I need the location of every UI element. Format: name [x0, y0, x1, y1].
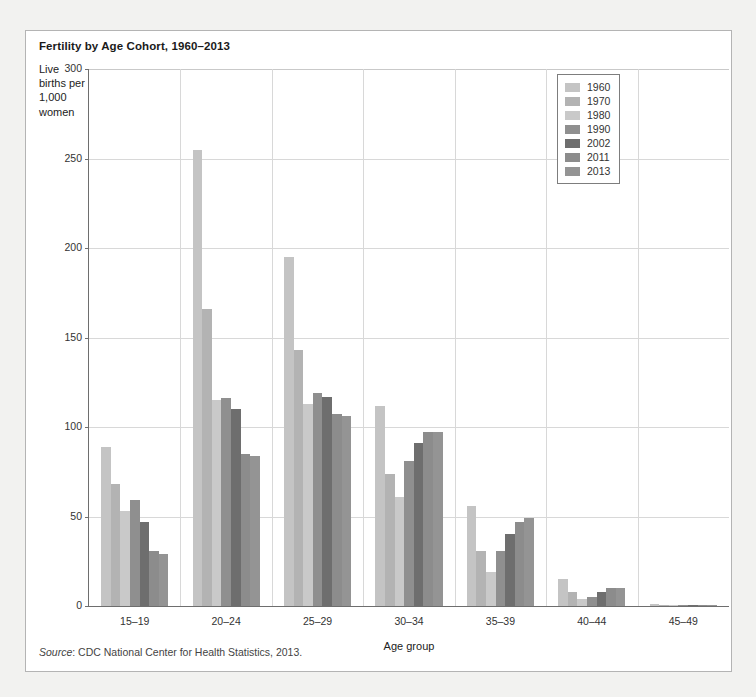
bar-1960-35-39: [467, 506, 477, 606]
figure-frame: Fertility by Age Cohort, 1960–2013 Live …: [25, 30, 732, 672]
bar-1990-20-24: [221, 398, 231, 606]
bar-1980-20-24: [212, 400, 222, 606]
bar-1990-25-29: [313, 393, 323, 606]
y-axis-tick-label: 50: [42, 510, 82, 522]
legend-swatch-icon: [565, 139, 580, 148]
x-axis-group-label: 35–39: [455, 615, 546, 627]
gridline-horizontal: [89, 338, 729, 339]
bar-1960-30-34: [375, 406, 385, 606]
gridline-horizontal: [89, 69, 729, 70]
y-axis-tick-label: 0: [42, 599, 82, 611]
bar-1970-40-44: [568, 592, 578, 606]
bar-1980-40-44: [577, 599, 587, 606]
legend-item: 2013: [565, 164, 610, 178]
bar-1960-20-24: [193, 150, 203, 606]
y-axis-tick-label: 300: [42, 62, 82, 74]
bar-2013-30-34: [433, 432, 443, 606]
bar-1970-25-29: [294, 350, 304, 606]
bar-2013-25-29: [342, 416, 352, 606]
plot-frame: Age group 05010015020025030015–1920–2425…: [89, 69, 729, 606]
legend-item: 1990: [565, 122, 610, 136]
bar-2002-40-44: [597, 592, 607, 606]
y-axis-tick-label: 250: [42, 152, 82, 164]
gridline-horizontal: [89, 427, 729, 428]
bar-1990-40-44: [587, 597, 597, 606]
legend-swatch-icon: [565, 153, 580, 162]
chart-legend: 1960197019801990200220112013: [557, 74, 620, 184]
bar-1980-35-39: [486, 572, 496, 606]
legend-swatch-icon: [565, 83, 580, 92]
bar-1970-15-19: [111, 484, 121, 606]
bar-1960-40-44: [558, 579, 568, 606]
legend-label: 2011: [587, 150, 610, 164]
bar-2002-20-24: [231, 409, 241, 606]
bar-1960-25-29: [284, 257, 294, 606]
bar-2011-40-44: [606, 588, 616, 606]
gridline-vertical: [638, 69, 639, 606]
bar-2013-15-19: [159, 554, 169, 606]
legend-item: 2011: [565, 150, 610, 164]
y-axis-tick: [85, 427, 89, 428]
gridline-vertical: [363, 69, 364, 606]
bar-2011-20-24: [241, 454, 251, 606]
legend-label: 2013: [587, 164, 610, 178]
bar-1960-15-19: [101, 447, 111, 606]
y-axis-tick: [85, 69, 89, 70]
legend-item: 1960: [565, 80, 610, 94]
legend-label: 1970: [587, 94, 610, 108]
bar-2011-30-34: [423, 432, 433, 606]
gridline-vertical: [272, 69, 273, 606]
source-label: Source: [39, 646, 72, 658]
legend-label: 1980: [587, 108, 610, 122]
x-axis-group-label: 20–24: [180, 615, 271, 627]
x-axis-line: [88, 606, 729, 607]
bar-2013-35-39: [524, 518, 534, 606]
legend-swatch-icon: [565, 125, 580, 134]
y-axis-tick: [85, 606, 89, 607]
y-axis-tick-label: 100: [42, 420, 82, 432]
x-axis-group-label: 25–29: [272, 615, 363, 627]
bar-1990-15-19: [130, 500, 140, 606]
bar-1970-35-39: [476, 551, 486, 606]
legend-swatch-icon: [565, 167, 580, 176]
bar-1980-15-19: [120, 511, 130, 606]
x-axis-group-label: 15–19: [89, 615, 180, 627]
bar-1970-30-34: [385, 474, 395, 606]
gridline-horizontal: [89, 159, 729, 160]
bar-1980-25-29: [303, 404, 313, 606]
gridline-vertical: [546, 69, 547, 606]
gridline-vertical: [455, 69, 456, 606]
bar-2013-40-44: [616, 588, 626, 606]
y-axis-tick: [85, 338, 89, 339]
bar-2011-15-19: [149, 551, 159, 606]
legend-label: 1960: [587, 80, 610, 94]
bar-1990-35-39: [496, 551, 506, 606]
bar-2011-35-39: [515, 522, 525, 606]
source-note: Source: CDC National Center for Health S…: [39, 646, 302, 658]
bar-2002-30-34: [414, 443, 424, 606]
gridline-vertical: [180, 69, 181, 606]
legend-label: 2002: [587, 136, 610, 150]
x-axis-group-label: 30–34: [363, 615, 454, 627]
bar-1970-20-24: [202, 309, 212, 606]
y-axis-tick-label: 200: [42, 241, 82, 253]
y-axis-tick: [85, 517, 89, 518]
legend-swatch-icon: [565, 111, 580, 120]
legend-label: 1990: [587, 122, 610, 136]
legend-swatch-icon: [565, 97, 580, 106]
source-text: : CDC National Center for Health Statist…: [72, 646, 302, 658]
chart-title: Fertility by Age Cohort, 1960–2013: [39, 40, 230, 52]
legend-item: 2002: [565, 136, 610, 150]
bar-2002-25-29: [322, 397, 332, 606]
legend-item: 1980: [565, 108, 610, 122]
bar-2002-35-39: [505, 534, 515, 606]
y-axis-tick: [85, 248, 89, 249]
y-axis-tick-label: 150: [42, 331, 82, 343]
y-axis-tick: [85, 159, 89, 160]
bar-1990-30-34: [404, 461, 414, 606]
gridline-horizontal: [89, 248, 729, 249]
bar-2013-20-24: [250, 456, 260, 606]
x-axis-group-label: 45–49: [638, 615, 729, 627]
plot-area: [89, 69, 729, 606]
bar-2011-25-29: [332, 414, 342, 606]
